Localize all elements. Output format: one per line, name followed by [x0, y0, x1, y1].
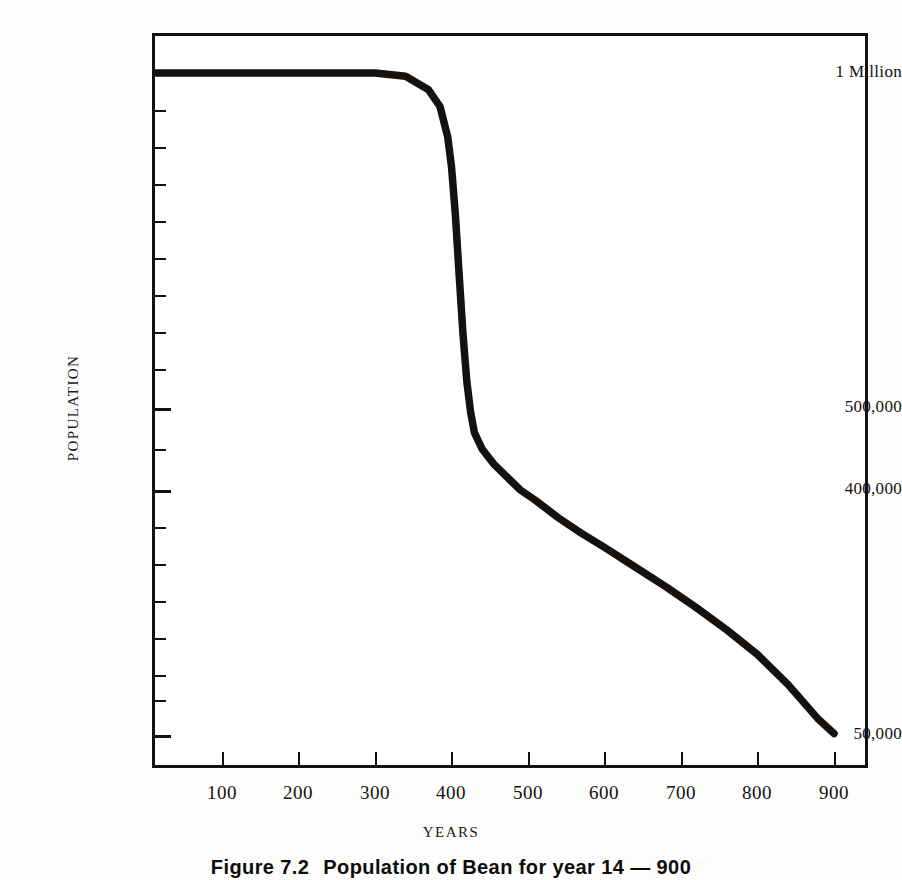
x-axis-title: YEARS: [0, 824, 902, 841]
y-axis-title: POPULATION: [65, 355, 82, 462]
x-axis-tick: [604, 752, 606, 768]
y-axis-tick: [152, 700, 166, 702]
y-axis-label-500000: 500,000: [756, 397, 902, 417]
y-axis-tick: [152, 449, 166, 451]
y-axis-tick: [152, 295, 166, 297]
y-axis-tick: [152, 408, 171, 411]
x-axis-label: 200: [258, 782, 338, 804]
figure-container: 1 Million 500,000 400,000 50,000 POPULAT…: [0, 0, 902, 880]
y-axis-tick: [152, 490, 171, 493]
figure-caption: Figure 7.2Population of Bean for year 14…: [0, 856, 902, 879]
x-axis-tick: [681, 752, 683, 768]
y-axis-label-50000: 50,000: [756, 724, 902, 744]
y-axis-tick: [152, 110, 166, 112]
x-axis-label: 500: [488, 782, 568, 804]
y-axis-tick: [152, 638, 166, 640]
y-axis-tick: [152, 73, 171, 76]
x-axis-label: 900: [794, 782, 874, 804]
x-axis-tick: [375, 752, 377, 768]
figure-caption-label: Figure 7.2: [211, 856, 309, 878]
x-axis-label: 700: [641, 782, 721, 804]
x-axis-tick: [451, 752, 453, 768]
y-axis-label-1-million: 1 Million: [756, 62, 902, 82]
x-axis-tick: [222, 752, 224, 768]
y-axis-tick: [152, 735, 171, 738]
x-axis-tick: [528, 752, 530, 768]
y-axis-tick: [152, 147, 166, 149]
figure-caption-text: Population of Bean for year 14 — 900: [323, 856, 691, 878]
x-axis-label: 600: [564, 782, 644, 804]
y-axis-tick: [152, 221, 166, 223]
y-axis-tick: [152, 184, 166, 186]
y-axis-tick: [152, 675, 166, 677]
x-axis-tick: [298, 752, 300, 768]
x-axis-label: 300: [335, 782, 415, 804]
x-axis-label: 400: [411, 782, 491, 804]
x-axis-label: 800: [717, 782, 797, 804]
y-axis-tick: [152, 527, 166, 529]
x-axis-label: 100: [182, 782, 262, 804]
x-axis-tick: [757, 752, 759, 768]
y-axis-tick: [152, 601, 166, 603]
y-axis-tick: [152, 369, 166, 371]
x-axis-tick: [834, 752, 836, 768]
y-axis-tick: [152, 564, 166, 566]
y-axis-tick: [152, 332, 166, 334]
y-axis-tick: [152, 258, 166, 260]
y-axis-label-400000: 400,000: [756, 479, 902, 499]
